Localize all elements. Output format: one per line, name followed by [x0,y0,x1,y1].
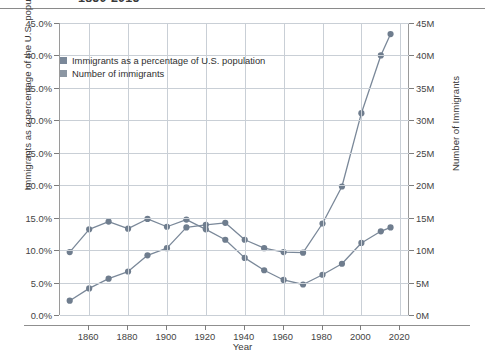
y-axis-right-tick-label: 25M [416,147,434,158]
x-axis-tick [283,325,284,330]
gridline-horizontal [60,153,410,154]
y-axis-left-tick [54,88,59,89]
y-axis-left-tick [54,283,59,284]
x-axis-tick [127,325,128,330]
y-axis-right-tick-label: 30M [416,115,434,126]
legend-swatch-icon [60,70,67,77]
y-axis-right-tick [409,153,414,154]
y-axis-left-tick [54,185,59,186]
data-point [261,267,267,273]
y-axis-right-tick-label: 45M [416,18,434,29]
legend-item-label: Number of immigrants [72,68,164,79]
data-point [144,252,150,258]
chart-legend: Immigrants as a percentage of U.S. popul… [60,55,265,81]
y-axis-left-tick-label: 0.0% [31,310,52,321]
y-axis-right-tick-label: 15M [416,212,434,223]
y-axis-right-tick-label: 0M [416,310,429,321]
gridline-horizontal [60,283,410,284]
gridline-horizontal [60,250,410,251]
y-axis-right-title: Number of Immigrants [450,54,461,194]
gridline-horizontal [60,315,410,316]
y-axis-left-tick [54,315,59,316]
y-axis-right-tick-label: 5M [416,277,429,288]
legend-swatch-icon [60,57,67,64]
data-point [106,218,112,224]
gridline-horizontal [60,120,410,121]
data-point [222,237,228,243]
y-axis-left-tick [54,120,59,121]
data-point [387,224,393,230]
gridline-horizontal [60,185,410,186]
gridline-horizontal [60,23,410,24]
y-axis-right-tick-label: 35M [416,82,434,93]
y-axis-left-tick [54,23,59,24]
data-point [378,228,384,234]
x-axis-tick [88,325,89,330]
gridline-horizontal [60,218,410,219]
gridline-horizontal [60,88,410,89]
gridline-vertical [323,23,324,315]
x-axis-tick [205,325,206,330]
y-axis-right-tick [409,88,414,89]
y-axis-left-tick [54,218,59,219]
y-axis-left-title: Immigrants as a percentage of the U.S. p… [22,0,33,199]
x-axis-tick [166,325,167,330]
data-point [222,220,228,226]
x-axis-tick [322,325,323,330]
x-axis-tick [360,325,361,330]
y-axis-right-tick [409,283,414,284]
data-point [183,224,189,230]
y-axis-right-tick [409,250,414,251]
legend-item-label: Immigrants as a percentage of U.S. popul… [72,55,265,66]
legend-item[interactable]: Number of immigrants [60,68,265,79]
y-axis-left-tick [54,153,59,154]
data-point [387,31,393,37]
title-divider [0,8,485,9]
y-axis-right-tick [409,120,414,121]
x-axis-tick [244,325,245,330]
y-axis-right-tick [409,218,414,219]
x-axis-tick [399,325,400,330]
y-axis-right-tick [409,55,414,56]
data-point [339,261,345,267]
y-axis-right-tick-label: 10M [416,245,434,256]
y-axis-right-tick [409,23,414,24]
data-point [106,276,112,282]
gridline-vertical [361,23,362,315]
y-axis-right-tick-label: 40M [416,50,434,61]
chart-title: 1850-2015 [78,0,140,5]
y-axis-right-tick [409,185,414,186]
chart-root: 1850-2015 0.0%5.0%10.0%15.0%20.0%25.0%30… [0,0,485,353]
y-axis-left-tick [54,250,59,251]
x-axis-title: Year [0,341,485,352]
y-axis-right-tick-label: 20M [416,180,434,191]
y-axis-left-tick [54,55,59,56]
x-axis-line [24,325,470,326]
gridline-vertical [284,23,285,315]
y-axis-left-tick-label: 5.0% [31,277,52,288]
y-axis-left-tick-label: 10.0% [25,245,52,256]
gridline-vertical [400,23,401,315]
legend-item[interactable]: Immigrants as a percentage of U.S. popul… [60,55,265,66]
data-point [67,298,73,304]
y-axis-left-tick-label: 15.0% [25,212,52,223]
y-axis-right-tick [409,315,414,316]
